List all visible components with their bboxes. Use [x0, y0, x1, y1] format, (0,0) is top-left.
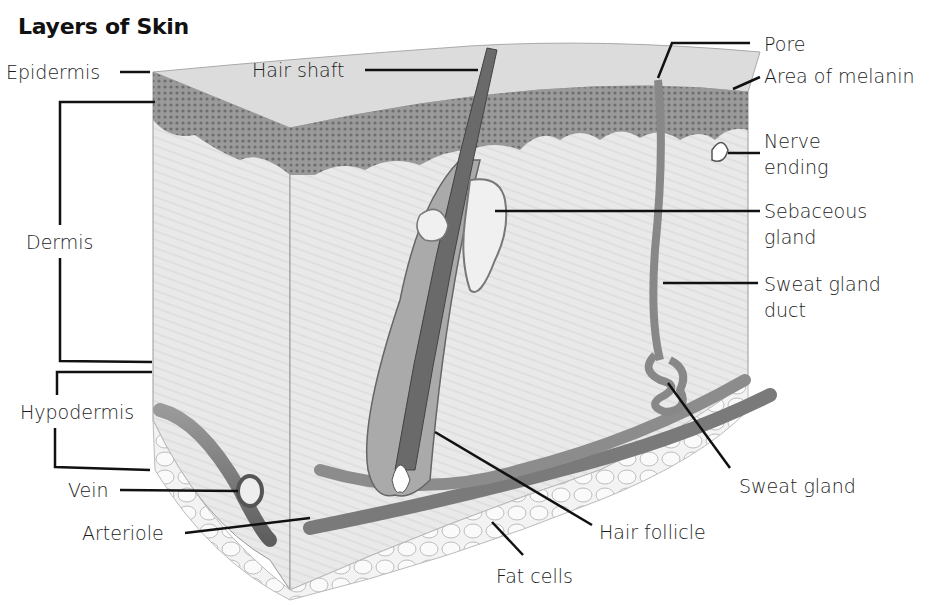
label-sweat-gland: Sweat gland — [739, 475, 856, 497]
label-hair-shaft: Hair shaft — [252, 59, 344, 81]
label-fat-cells: Fat cells — [496, 565, 573, 587]
label-sweat-gland-duct-line1: Sweat gland — [764, 273, 881, 295]
label-arteriole: Arteriole — [82, 522, 164, 544]
label-hypodermis: Hypodermis — [20, 401, 134, 423]
dermis-bracket-top — [60, 102, 155, 225]
label-nerve-ending-line1: Nerve — [764, 130, 829, 152]
label-nerve-ending-line2: ending — [764, 156, 829, 178]
label-hair-follicle: Hair follicle — [599, 521, 706, 543]
label-sebaceous-gland-line1: Sebaceous — [764, 200, 867, 222]
vein-cross-section — [238, 476, 262, 506]
label-nerve-ending: Nerve ending — [764, 130, 829, 178]
label-vein: Vein — [68, 479, 109, 501]
label-sweat-gland-duct: Sweat gland duct — [764, 273, 881, 321]
label-pore: Pore — [764, 33, 806, 55]
sebaceous-gland-small — [417, 209, 448, 241]
label-area-of-melanin: Area of melanin — [764, 65, 915, 87]
label-epidermis: Epidermis — [6, 61, 100, 83]
label-sebaceous-gland: Sebaceous gland — [764, 200, 867, 248]
label-sweat-gland-duct-line2: duct — [764, 299, 881, 321]
hypodermis-bracket-top — [57, 372, 152, 395]
dermis-bracket-bottom — [60, 258, 152, 362]
label-sebaceous-gland-line2: gland — [764, 226, 867, 248]
label-dermis: Dermis — [24, 231, 95, 253]
vein-leader — [120, 490, 238, 491]
hypodermis-bracket-bottom — [55, 428, 150, 470]
